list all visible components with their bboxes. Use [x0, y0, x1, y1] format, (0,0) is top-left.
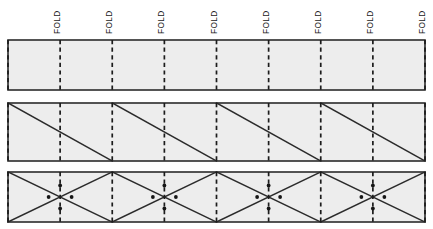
panel-plain-strip [8, 40, 425, 90]
fold-label-3: FOLD [156, 10, 166, 34]
vertex-dot-1-2 [58, 207, 62, 211]
fold-label-7: FOLD [365, 10, 375, 34]
fold-label-1: FOLD [52, 10, 62, 34]
vertex-dot-1-4 [70, 195, 74, 199]
fold-label-6: FOLD [313, 10, 323, 34]
vertex-dot-2-1 [162, 184, 166, 188]
vertex-dot-2-4 [174, 195, 178, 199]
fold-label-8: FOLD [417, 10, 427, 34]
fold-labels-group: FOLDFOLDFOLDFOLDFOLDFOLDFOLDFOLD [52, 10, 427, 34]
vertex-dot-1-3 [47, 195, 51, 199]
vertex-dot-2-3 [151, 195, 155, 199]
vertex-dot-4-4 [382, 195, 386, 199]
panel-sawtooth-strip [8, 103, 425, 161]
vertex-dot-1-1 [58, 184, 62, 188]
vertex-dot-4-2 [371, 207, 375, 211]
vertex-dot-3-2 [267, 207, 271, 211]
vertex-dot-3-3 [255, 195, 259, 199]
fold-label-2: FOLD [104, 10, 114, 34]
vertex-dot-2-2 [162, 207, 166, 211]
fold-pattern-diagram: FOLDFOLDFOLDFOLDFOLDFOLDFOLDFOLD [0, 0, 433, 229]
vertex-dot-3-4 [278, 195, 282, 199]
panels-group [8, 40, 425, 222]
vertex-dot-4-1 [371, 184, 375, 188]
vertex-dot-4-3 [359, 195, 363, 199]
fold-diagram-canvas: FOLDFOLDFOLDFOLDFOLDFOLDFOLDFOLD [0, 0, 433, 229]
fold-label-5: FOLD [261, 10, 271, 34]
fold-label-4: FOLD [209, 10, 219, 34]
vertex-dot-3-1 [267, 184, 271, 188]
panel-zigzag-strip [8, 172, 425, 222]
